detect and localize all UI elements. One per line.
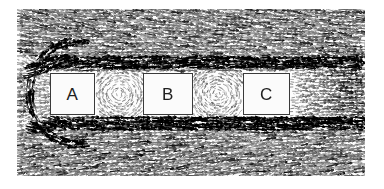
figure-root: A B C bbox=[0, 0, 384, 189]
obstacle-block-b: B bbox=[143, 73, 193, 115]
vector-field-panel: A B C bbox=[17, 9, 365, 176]
obstacle-label-a: A bbox=[67, 86, 79, 103]
obstacle-block-c: C bbox=[243, 73, 290, 115]
obstacle-block-a: A bbox=[50, 73, 95, 115]
obstacle-label-b: B bbox=[162, 86, 174, 103]
obstacle-label-c: C bbox=[260, 86, 273, 103]
